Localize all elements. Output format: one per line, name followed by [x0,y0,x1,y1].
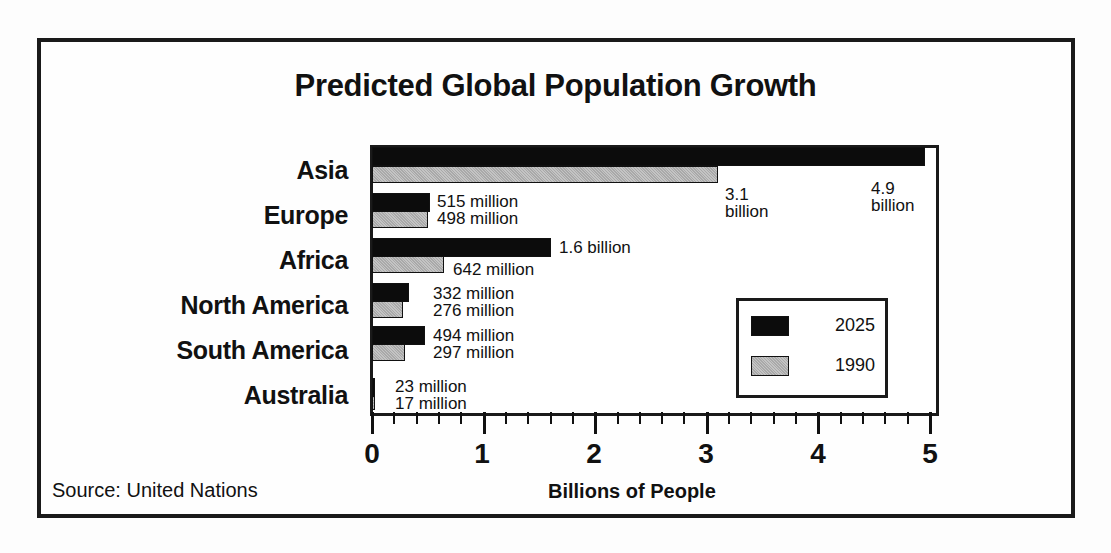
bar-asia-2025 [372,147,925,166]
category-label-australia: Australia [244,381,348,410]
value-label-south-america-1990: 297 million [433,344,514,361]
bar-north-america-1990 [372,301,403,318]
bar-europe-2025 [372,193,430,212]
legend: 2025 1990 [736,298,888,398]
x-tick-mark [907,412,909,424]
x-tick-mark [438,412,440,424]
value-label-europe-2025: 515 million [437,193,518,210]
x-tick-label-5: 5 [915,438,945,470]
x-tick-mark [572,412,574,424]
x-tick-mark [617,412,619,424]
value-label-africa-1990: 642 million [453,261,534,278]
category-label-europe: Europe [264,201,348,230]
x-tick-mark [750,412,752,424]
x-tick-mark [371,412,374,434]
bar-north-america-2025 [372,283,409,302]
value-label-south-america-2025: 494 million [433,327,514,344]
category-label-africa: Africa [279,246,348,275]
bar-south-america-1990 [372,344,405,361]
x-tick-mark [862,412,864,424]
value-label-asia-1990: 3.1billion [725,186,768,220]
x-tick-label-2: 2 [579,438,609,470]
category-label-north-america: North America [181,291,348,320]
x-tick-mark [683,412,685,424]
x-tick-mark [393,412,395,424]
value-label-north-america-2025: 332 million [433,285,514,302]
bar-asia-1990 [372,166,718,183]
x-tick-label-4: 4 [803,438,833,470]
x-tick-mark [817,412,820,434]
x-tick-mark [460,412,462,424]
x-tick-label-0: 0 [357,438,387,470]
category-label-south-america: South America [176,336,348,365]
x-tick-mark [929,412,932,434]
category-label-asia: Asia [296,156,348,185]
x-tick-mark [416,412,418,424]
value-label-asia-2025: 4.9billion [871,180,914,214]
x-tick-mark [594,412,597,434]
x-tick-mark [505,412,507,424]
x-tick-mark [661,412,663,424]
value-label-australia-1990: 17 million [395,395,467,412]
x-tick-mark [884,412,886,424]
x-tick-mark [706,412,709,434]
x-tick-mark [527,412,529,424]
legend-swatch-2025 [751,316,789,336]
source-note: Source: United Nations [52,479,258,502]
bar-europe-1990 [372,211,428,228]
bar-south-america-2025 [372,326,425,345]
legend-label-1990: 1990 [835,355,875,376]
x-tick-label-3: 3 [691,438,721,470]
chart-title: Predicted Global Population Growth [0,68,1111,104]
bar-africa-1990 [372,256,444,273]
value-label-europe-1990: 498 million [437,210,518,227]
bar-australia-2025 [372,378,375,396]
x-tick-mark [639,412,641,424]
x-tick-label-1: 1 [467,438,497,470]
value-label-australia-2025: 23 million [395,378,467,395]
legend-label-2025: 2025 [835,315,875,336]
x-tick-mark [840,412,842,424]
x-tick-mark [773,412,775,424]
x-tick-mark [550,412,552,424]
x-tick-mark [483,412,486,434]
legend-swatch-1990 [751,356,789,376]
x-axis-title: Billions of People [548,480,716,503]
x-tick-mark [728,412,730,424]
bar-australia-1990 [372,396,375,410]
x-tick-mark [795,412,797,424]
value-label-north-america-1990: 276 million [433,302,514,319]
value-label-africa-2025: 1.6 billion [559,239,631,256]
bar-africa-2025 [372,238,551,257]
